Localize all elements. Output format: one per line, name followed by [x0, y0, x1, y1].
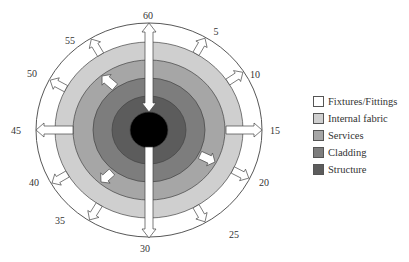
- legend-swatch-services: [313, 130, 324, 141]
- legend: Fixtures/Fittings Internal fabric Servic…: [313, 93, 397, 178]
- tick-label-20: 20: [259, 177, 269, 188]
- legend-label: Internal fabric: [328, 113, 388, 124]
- legend-item-fixtures: Fixtures/Fittings: [313, 93, 397, 110]
- tick-label-25: 25: [229, 229, 239, 240]
- legend-label: Services: [328, 130, 364, 141]
- legend-label: Cladding: [328, 147, 367, 158]
- legend-item-services: Services: [313, 127, 397, 144]
- legend-swatch-internal-fabric: [313, 113, 324, 124]
- tick-label-10: 10: [250, 69, 260, 80]
- tick-label-45: 45: [11, 125, 21, 136]
- tick-label-60: 60: [143, 10, 153, 21]
- tick-label-5: 5: [214, 26, 219, 37]
- tick-label-50: 50: [27, 68, 37, 79]
- tick-label-55: 55: [65, 35, 75, 46]
- ring-core: [130, 112, 168, 148]
- legend-label: Fixtures/Fittings: [328, 96, 397, 107]
- tick-label-35: 35: [55, 215, 65, 226]
- tick-label-15: 15: [270, 125, 280, 136]
- legend-swatch-structure: [313, 164, 324, 175]
- tick-label-40: 40: [29, 177, 39, 188]
- legend-swatch-fixtures: [313, 96, 324, 107]
- legend-swatch-cladding: [313, 147, 324, 158]
- legend-item-internal-fabric: Internal fabric: [313, 110, 397, 127]
- tick-label-30: 30: [140, 243, 150, 254]
- legend-item-structure: Structure: [313, 161, 397, 178]
- legend-item-cladding: Cladding: [313, 144, 397, 161]
- legend-label: Structure: [328, 164, 367, 175]
